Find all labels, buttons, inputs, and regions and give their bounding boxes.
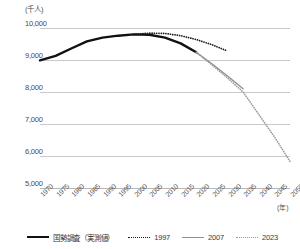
series-line	[196, 52, 290, 161]
x-axis-unit-label: (年)	[277, 202, 289, 212]
legend-item-label: 1997	[154, 233, 170, 242]
solid-line-icon	[27, 236, 49, 238]
legend-item[interactable]: 2007	[182, 233, 224, 242]
legend-item[interactable]: 国勢調査（実測値）	[27, 232, 114, 243]
population-projection-chart: (千人) 10,0009,0008,0007,0006,0005,000 197…	[0, 0, 300, 249]
solid-line-icon	[182, 237, 204, 238]
legend-item-label: 2023	[262, 233, 278, 242]
dotted-line-icon	[128, 237, 150, 238]
dotted-line-icon	[236, 237, 258, 238]
y-axis-tick-label: 10,000	[25, 19, 47, 28]
x-axis-tick-label: 2050	[289, 183, 300, 198]
legend-item-label: 2007	[208, 233, 224, 242]
legend-item-label: 国勢調査（実測値）	[53, 232, 114, 243]
legend-item[interactable]: 1997	[128, 233, 170, 242]
series-lines	[40, 28, 290, 188]
y-axis-unit-label: (千人)	[25, 3, 43, 14]
plot-area	[40, 28, 290, 188]
chart-legend: 国勢調査（実測値）199720072023	[27, 229, 293, 245]
legend-item[interactable]: 2023	[236, 233, 278, 242]
series-line	[40, 34, 196, 60]
